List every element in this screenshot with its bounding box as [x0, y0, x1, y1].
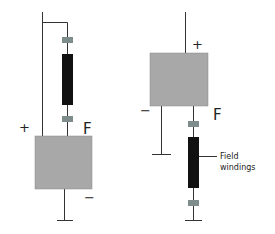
- circuit-diagram: [0, 0, 275, 234]
- left-connector-top: [62, 37, 73, 43]
- left-minus-label: −: [84, 191, 95, 204]
- left-field-label: F: [83, 122, 92, 137]
- right-connector-bottom: [188, 200, 199, 206]
- right-minus-label: −: [140, 104, 151, 117]
- left-generator-box: [35, 136, 92, 189]
- left-connector-bottom: [62, 116, 73, 122]
- right-plus-label: +: [192, 38, 203, 51]
- right-connector-top: [188, 121, 199, 127]
- right-field-winding: [188, 137, 199, 188]
- field-windings-callout: Field windings: [220, 151, 255, 173]
- right-generator-box: [150, 53, 208, 106]
- right-circuit: [152, 12, 217, 221]
- left-field-winding: [62, 54, 73, 105]
- left-plus-label: +: [19, 121, 30, 134]
- right-field-label: F: [213, 108, 222, 123]
